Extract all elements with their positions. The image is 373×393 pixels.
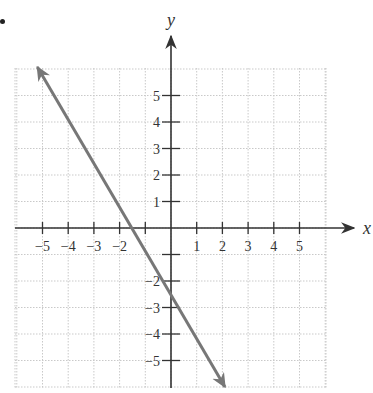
x-tick-label: −3 bbox=[86, 239, 101, 254]
y-tick-label: −5 bbox=[145, 354, 160, 369]
x-tick-label: 4 bbox=[270, 239, 277, 254]
y-tick-label: 2 bbox=[153, 168, 160, 183]
x-tick-label: −2 bbox=[112, 239, 127, 254]
y-tick-label: 5 bbox=[153, 89, 160, 104]
y-tick-label: −2 bbox=[145, 274, 160, 289]
y-tick-label: 4 bbox=[153, 115, 160, 130]
coordinate-plane: −5−4−3−21234554321−2−3−4−5 x y bbox=[0, 0, 373, 393]
x-tick-label: −5 bbox=[35, 239, 50, 254]
x-tick-label: 2 bbox=[219, 239, 226, 254]
x-axis-label: x bbox=[362, 218, 371, 238]
y-axis-label: y bbox=[165, 10, 175, 30]
x-tick-label: −4 bbox=[61, 239, 76, 254]
axes bbox=[15, 36, 354, 388]
x-tick-label: 5 bbox=[296, 239, 303, 254]
y-tick-label: −4 bbox=[145, 327, 160, 342]
x-tick-label: 3 bbox=[245, 239, 252, 254]
y-tick-label: 1 bbox=[153, 195, 160, 210]
y-tick-label: −3 bbox=[145, 301, 160, 316]
x-tick-label: 1 bbox=[193, 239, 200, 254]
y-tick-label: 3 bbox=[153, 142, 160, 157]
